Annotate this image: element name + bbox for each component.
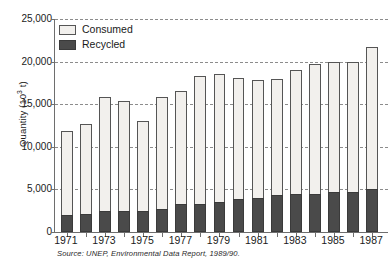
- stacked-bar-chart-figure: Quantity (103 t) 05,00010,00015,00020,00…: [0, 0, 391, 264]
- chart-legend: Consumed Recycled: [59, 22, 167, 52]
- x-axis-tick-label: 1979: [198, 234, 238, 246]
- x-axis-tick-label: 1983: [275, 234, 315, 246]
- bar-stack: [61, 131, 73, 232]
- bar-stack: [366, 47, 378, 232]
- x-axis-tick-label: 1977: [160, 234, 200, 246]
- y-axis-tick-label: 15,000: [2, 99, 52, 109]
- bar-segment-recycled: [80, 214, 92, 232]
- x-axis-tick-label: 1971: [46, 234, 86, 246]
- y-axis-tick-label: 25,000: [2, 14, 52, 24]
- x-axis-tick-label: 1975: [122, 234, 162, 246]
- bar-stack: [137, 121, 149, 232]
- bar-segment-recycled: [194, 204, 206, 232]
- bar-segment-recycled: [233, 199, 245, 232]
- bar-segment-recycled: [290, 194, 302, 232]
- bar-stack: [328, 62, 340, 232]
- bar-stack: [233, 78, 245, 232]
- y-axis-tickmark: [51, 232, 55, 233]
- y-axis-tick-label: 10,000: [2, 142, 52, 152]
- bar-segment-recycled: [328, 192, 340, 232]
- bar-stack: [252, 80, 264, 232]
- x-axis-tick-label: 1973: [84, 234, 124, 246]
- bar-segment-recycled: [366, 189, 378, 232]
- y-axis-tick-label: 5,000: [2, 184, 52, 194]
- bar-stack: [194, 76, 206, 232]
- x-axis-tick-label: 1981: [237, 234, 277, 246]
- bar-segment-recycled: [271, 195, 283, 232]
- legend-swatch-recycled-icon: [59, 40, 76, 50]
- bar-stack: [214, 74, 226, 232]
- bar-segment-recycled: [175, 204, 187, 232]
- y-axis-tick-labels: 05,00010,00015,00020,00025,000: [0, 0, 52, 264]
- bar-segment-recycled: [214, 202, 226, 232]
- bar-stack: [290, 70, 302, 232]
- legend-swatch-consumed-icon: [59, 25, 76, 35]
- bar-segment-recycled: [309, 194, 321, 232]
- bar-stack: [156, 97, 168, 232]
- bar-segment-recycled: [118, 211, 130, 232]
- legend-label-consumed: Consumed: [82, 24, 133, 35]
- bar-stack: [175, 91, 187, 232]
- bar-stack: [347, 62, 359, 232]
- bar-stack: [80, 124, 92, 232]
- y-axis-tick-label: 20,000: [2, 57, 52, 67]
- bar-segment-recycled: [347, 192, 359, 232]
- bar-stack: [118, 101, 130, 232]
- x-axis-tick-labels: 197119731975197719791981198319851987: [54, 234, 387, 250]
- bar-segment-recycled: [252, 198, 264, 232]
- legend-item-recycled: Recycled: [59, 37, 167, 52]
- source-note: Source: UNEP, Environmental Data Report,…: [57, 249, 240, 258]
- bar-segment-recycled: [137, 211, 149, 232]
- bar-stack: [309, 64, 321, 232]
- legend-item-consumed: Consumed: [59, 22, 167, 37]
- bar-segment-recycled: [99, 211, 111, 232]
- bar-segment-recycled: [156, 209, 168, 232]
- bar-stack: [271, 79, 283, 232]
- y-axis-tick-label: 0: [2, 227, 52, 237]
- x-axis-tick-label: 1987: [351, 234, 391, 246]
- bar-stack: [99, 97, 111, 232]
- legend-label-recycled: Recycled: [82, 39, 125, 50]
- bar-segment-recycled: [61, 215, 73, 232]
- x-axis-tick-label: 1985: [313, 234, 353, 246]
